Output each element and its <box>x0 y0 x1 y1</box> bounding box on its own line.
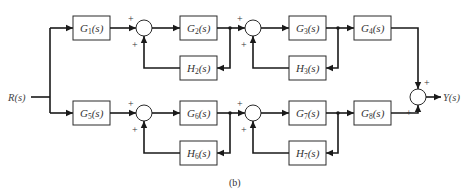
block-diagram: R(s) G1(s) + + G2(s) H2(s) + + G3(s) H3(… <box>0 0 468 189</box>
sum4-sign-top: + <box>237 98 243 109</box>
output-sum-sign-top: + <box>424 77 430 88</box>
block-g3-label: G3(s) <box>296 22 320 36</box>
output-summing-junction <box>410 89 426 105</box>
arrow-g8-output-sum <box>391 105 418 113</box>
summing-junction-3 <box>136 105 152 121</box>
sum3-sign-bottom: + <box>132 124 138 135</box>
sum1-sign-bottom: + <box>132 39 138 50</box>
block-g7-label: G7(s) <box>296 107 320 121</box>
block-h3-label: H3(s) <box>295 62 320 76</box>
summing-junction-4 <box>245 105 261 121</box>
block-h6-label: H6(s) <box>186 147 211 161</box>
input-label: R(s) <box>7 92 26 104</box>
block-g6-label: G6(s) <box>187 107 211 121</box>
feedback-to-h7 <box>326 113 338 153</box>
top-path: G1(s) + + G2(s) H2(s) + + G3(s) H3(s) G4… <box>73 13 418 89</box>
feedback-h2-sum1 <box>144 36 180 68</box>
block-g5-label: G5(s) <box>80 107 104 121</box>
summing-junction-1 <box>136 20 152 36</box>
bottom-path: G5(s) + + G6(s) H6(s) + + G7(s) H7(s) G8… <box>73 98 418 165</box>
block-h7-label: H7(s) <box>295 147 320 161</box>
block-g8-label: G8(s) <box>361 107 385 121</box>
output-sum-sign-bottom: + <box>406 107 412 118</box>
feedback-to-h3 <box>326 28 338 68</box>
sum1-sign-top: + <box>128 13 134 24</box>
output-label: Y(s) <box>443 92 460 104</box>
feedback-h7-sum4 <box>253 121 289 153</box>
block-g1-label: G1(s) <box>80 22 104 36</box>
feedback-h3-sum2 <box>253 36 289 68</box>
summing-junction-2 <box>245 20 261 36</box>
sum3-sign-top: + <box>128 98 134 109</box>
block-h2-label: H2(s) <box>186 62 211 76</box>
arrow-g4-output-sum <box>391 28 418 89</box>
feedback-to-h2 <box>217 28 230 68</box>
feedback-h6-sum3 <box>144 121 180 153</box>
block-g2-label: G2(s) <box>187 22 211 36</box>
sum2-sign-top: + <box>237 13 243 24</box>
sum2-sign-bottom: + <box>241 39 247 50</box>
feedback-to-h6 <box>217 113 230 153</box>
sum4-sign-bottom: + <box>241 124 247 135</box>
figure-caption: (b) <box>229 177 241 189</box>
block-g4-label: G4(s) <box>361 22 385 36</box>
